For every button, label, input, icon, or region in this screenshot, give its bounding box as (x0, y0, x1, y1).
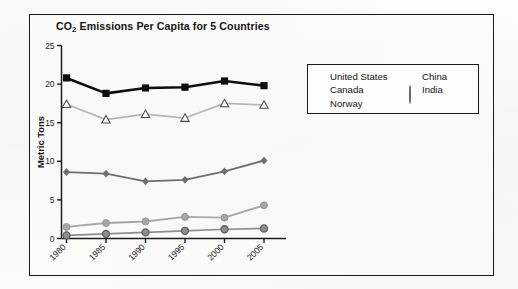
y-tick-label: 25 (45, 41, 55, 51)
legend-item-united-states[interactable]: United States (316, 70, 388, 84)
filled-diamond-marker-icon (221, 167, 228, 175)
filled-diamond-marker-icon (103, 170, 110, 178)
chart-series (62, 74, 268, 239)
y-axis-title: Metric Tons (35, 116, 46, 168)
open-triangle-marker-icon (316, 86, 325, 95)
dark-circle-marker-icon (182, 227, 189, 234)
x-tick-label: 1985 (87, 242, 108, 263)
legend-label-norway: Norway (330, 99, 363, 109)
legend-item-india[interactable]: India (408, 84, 447, 98)
series-united-states (63, 74, 268, 97)
figure-page: CO2 Emissions Per Capita for 5 Countries… (0, 0, 518, 289)
series-line (67, 78, 265, 93)
filled-square-marker-icon (260, 82, 267, 89)
x-tick-label: 2000 (205, 242, 226, 263)
y-tick-label: 10 (45, 156, 55, 166)
chart-axis-titles: Metric Tons (35, 116, 46, 168)
series-china (63, 202, 268, 231)
chart-legend: United States Canada Norway China India (307, 64, 479, 114)
chart-axes (57, 46, 286, 244)
x-tick-label: 2005 (245, 242, 266, 263)
filled-square-marker-icon (142, 84, 149, 91)
light-circle-marker-icon (63, 223, 70, 230)
light-circle-marker-icon (103, 220, 110, 227)
light-circle-marker-icon (261, 202, 268, 209)
filled-square-marker-icon (316, 72, 325, 81)
y-tick-label: 5 (50, 195, 55, 205)
filled-square-marker-icon (221, 77, 228, 84)
legend-item-norway[interactable]: Norway (316, 97, 388, 111)
legend-label-canada: Canada (330, 85, 364, 95)
dark-circle-marker-icon (408, 86, 417, 95)
filled-diamond-marker-icon (142, 177, 149, 185)
legend-item-canada[interactable]: Canada (316, 84, 388, 98)
y-tick-label: 15 (45, 118, 55, 128)
filled-square-marker-icon (181, 84, 188, 91)
series-line (67, 205, 265, 227)
series-line (67, 103, 265, 119)
filled-diamond-marker-icon (182, 176, 189, 184)
dark-circle-marker-icon (63, 232, 70, 239)
legend-column-left: United States Canada Norway (316, 70, 388, 111)
filled-diamond-marker-icon (261, 157, 268, 165)
line-chart-plot: 0510152025198019851990199520002005 Metri… (0, 0, 518, 289)
x-tick-label: 1980 (47, 242, 68, 263)
light-circle-marker-icon (142, 218, 149, 225)
open-triangle-marker-icon (62, 100, 70, 108)
filled-diamond-marker-icon (316, 99, 325, 108)
legend-column-right: China India (408, 70, 447, 97)
legend-label-china: China (422, 72, 447, 82)
series-norway (63, 157, 268, 186)
dark-circle-marker-icon (142, 229, 149, 236)
legend-label-india: India (422, 85, 443, 95)
light-circle-marker-icon (221, 214, 228, 221)
light-circle-marker-icon (408, 72, 417, 81)
legend-label-united-states: United States (330, 72, 388, 82)
series-india (63, 225, 268, 239)
light-circle-marker-icon (182, 213, 189, 220)
dark-circle-marker-icon (221, 226, 228, 233)
series-canada (62, 99, 268, 123)
x-tick-label: 1990 (126, 242, 147, 263)
series-line (67, 228, 265, 235)
series-line (67, 161, 265, 182)
y-tick-label: 0 (50, 234, 55, 244)
dark-circle-marker-icon (103, 230, 110, 237)
filled-diamond-marker-icon (63, 168, 70, 176)
x-tick-label: 1995 (166, 242, 187, 263)
dark-circle-marker-icon (261, 225, 268, 232)
filled-square-marker-icon (102, 90, 109, 97)
filled-square-marker-icon (63, 74, 70, 81)
legend-item-china[interactable]: China (408, 70, 447, 84)
y-tick-label: 20 (45, 79, 55, 89)
